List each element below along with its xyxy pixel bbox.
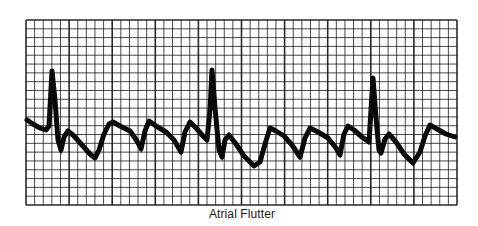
ecg-grid	[26, 20, 457, 205]
figure-caption: Atrial Flutter	[0, 207, 478, 221]
ecg-figure: Atrial Flutter	[0, 0, 478, 226]
ecg-strip	[0, 0, 478, 226]
